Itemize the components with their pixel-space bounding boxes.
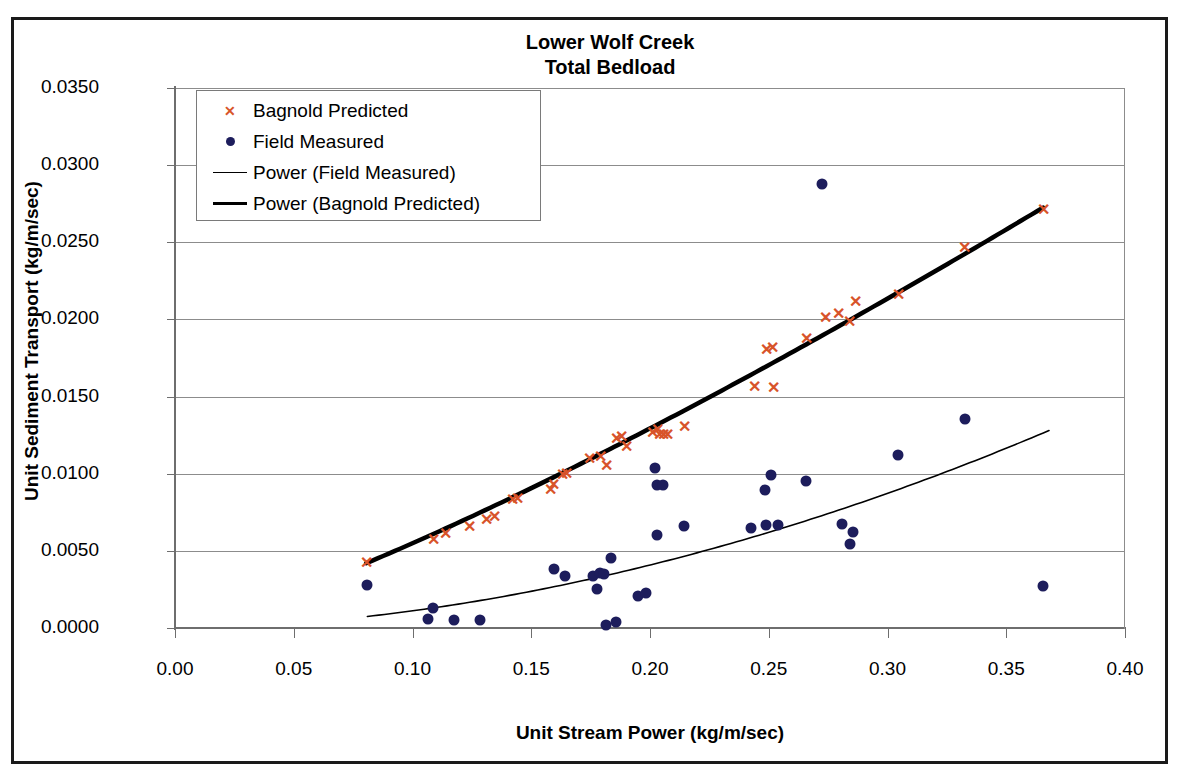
x-tick-label: 0.30 — [848, 658, 928, 680]
plot-right-edge — [1124, 88, 1125, 629]
data-point-field-measured — [658, 479, 669, 490]
data-point-bagnold-predicted: ✕ — [843, 314, 856, 330]
data-point-bagnold-predicted: ✕ — [439, 526, 452, 542]
line-thin-icon — [207, 172, 253, 173]
data-point-bagnold-predicted: ✕ — [560, 466, 573, 482]
y-tick-mark — [167, 242, 175, 243]
data-point-field-measured — [959, 413, 970, 424]
data-point-field-measured — [679, 521, 690, 532]
data-point-field-measured — [559, 570, 570, 581]
data-point-field-measured — [422, 613, 433, 624]
x-tick-mark — [413, 629, 414, 638]
data-point-field-measured — [1038, 580, 1049, 591]
line-thick-icon — [207, 202, 253, 205]
data-point-bagnold-predicted: ✕ — [1037, 202, 1050, 218]
legend: ✕ Bagnold Predicted Field Measured Power… — [196, 90, 541, 221]
data-point-field-measured — [449, 615, 460, 626]
data-point-field-measured — [761, 519, 772, 530]
x-tick-mark — [1006, 629, 1007, 638]
y-tick-label: 0.0100 — [9, 462, 99, 484]
data-point-field-measured — [427, 602, 438, 613]
data-point-field-measured — [591, 583, 602, 594]
data-point-field-measured — [773, 519, 784, 530]
legend-label: Power (Field Measured) — [253, 162, 456, 184]
legend-item-power-bagnold-predicted[interactable]: Power (Bagnold Predicted) — [197, 188, 540, 219]
legend-label: Field Measured — [253, 131, 384, 153]
y-tick-mark — [167, 319, 175, 320]
x-tick-label: 0.25 — [729, 658, 809, 680]
x-axis-title: Unit Stream Power (kg/m/sec) — [175, 722, 1125, 744]
y-tick-mark — [167, 474, 175, 475]
x-tick-label: 0.40 — [1085, 658, 1165, 680]
data-point-field-measured — [548, 563, 559, 574]
data-point-bagnold-predicted: ✕ — [849, 294, 862, 310]
data-point-bagnold-predicted: ✕ — [678, 419, 691, 435]
y-tick-label: 0.0150 — [9, 385, 99, 407]
data-point-bagnold-predicted: ✕ — [892, 287, 905, 303]
x-tick-mark — [294, 629, 295, 638]
x-tick-mark — [650, 629, 651, 638]
gridline-horizontal — [175, 242, 1125, 243]
marker-x-icon: ✕ — [207, 103, 253, 119]
gridline-horizontal — [175, 319, 1125, 320]
legend-item-bagnold-predicted[interactable]: ✕ Bagnold Predicted — [197, 95, 540, 126]
y-axis-line — [174, 86, 176, 630]
page-title: Lower Wolf Creek Total Bedload — [400, 30, 820, 80]
y-tick-label: 0.0350 — [9, 76, 99, 98]
data-point-bagnold-predicted: ✕ — [511, 491, 524, 507]
data-point-field-measured — [362, 579, 373, 590]
marker-dot-icon — [207, 137, 253, 146]
data-point-field-measured — [652, 529, 663, 540]
y-tick-label: 0.0050 — [9, 539, 99, 561]
data-point-field-measured — [766, 470, 777, 481]
y-tick-label: 0.0200 — [9, 307, 99, 329]
gridline-horizontal — [175, 474, 1125, 475]
x-tick-mark — [769, 629, 770, 638]
gridline-horizontal — [175, 551, 1125, 552]
data-point-field-measured — [800, 475, 811, 486]
data-point-bagnold-predicted: ✕ — [620, 439, 633, 455]
data-point-field-measured — [605, 552, 616, 563]
data-point-bagnold-predicted: ✕ — [819, 310, 832, 326]
x-tick-label: 0.05 — [254, 658, 334, 680]
data-point-bagnold-predicted: ✕ — [661, 427, 674, 443]
data-point-field-measured — [598, 569, 609, 580]
x-tick-label: 0.15 — [491, 658, 571, 680]
x-tick-label: 0.20 — [610, 658, 690, 680]
data-point-bagnold-predicted: ✕ — [360, 555, 373, 571]
gridline-horizontal — [175, 397, 1125, 398]
data-point-field-measured — [649, 463, 660, 474]
x-tick-label: 0.10 — [373, 658, 453, 680]
data-point-field-measured — [844, 538, 855, 549]
data-point-field-measured — [745, 522, 756, 533]
data-point-bagnold-predicted: ✕ — [748, 379, 761, 395]
chart-figure: Lower Wolf Creek Total Bedload Unit Sedi… — [0, 0, 1179, 783]
y-tick-label: 0.0000 — [9, 616, 99, 638]
data-point-bagnold-predicted: ✕ — [800, 331, 813, 347]
data-point-field-measured — [475, 615, 486, 626]
x-tick-mark — [888, 629, 889, 638]
data-point-bagnold-predicted: ✕ — [767, 380, 780, 396]
x-tick-mark — [531, 629, 532, 638]
legend-item-power-field-measured[interactable]: Power (Field Measured) — [197, 157, 540, 188]
y-tick-mark — [167, 165, 175, 166]
y-tick-mark — [167, 628, 175, 629]
legend-item-field-measured[interactable]: Field Measured — [197, 126, 540, 157]
data-point-field-measured — [848, 527, 859, 538]
y-tick-label: 0.0250 — [9, 230, 99, 252]
data-point-field-measured — [610, 616, 621, 627]
x-tick-mark — [175, 629, 176, 638]
data-point-bagnold-predicted: ✕ — [958, 240, 971, 256]
x-tick-label: 0.00 — [135, 658, 215, 680]
data-point-bagnold-predicted: ✕ — [766, 340, 779, 356]
legend-label: Power (Bagnold Predicted) — [253, 193, 480, 215]
y-tick-mark — [167, 551, 175, 552]
data-point-bagnold-predicted: ✕ — [600, 458, 613, 474]
x-tick-mark — [1125, 629, 1126, 638]
chart-title-line-2: Total Bedload — [400, 55, 820, 80]
legend-label: Bagnold Predicted — [253, 100, 408, 122]
data-point-field-measured — [760, 484, 771, 495]
y-tick-mark — [167, 88, 175, 89]
y-tick-label: 0.0300 — [9, 153, 99, 175]
y-tick-mark — [167, 397, 175, 398]
